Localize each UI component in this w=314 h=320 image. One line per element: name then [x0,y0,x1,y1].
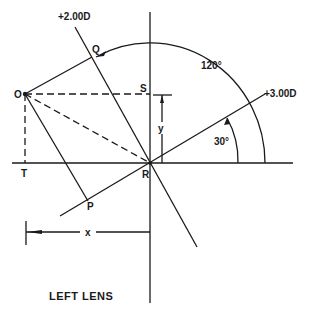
line-op [25,94,88,201]
label-30: 30° [214,136,229,147]
arrowhead-x [27,230,42,234]
label-t: T [21,168,27,179]
label-o: O [14,89,22,100]
label-q: Q [92,44,100,55]
point-r-dot [148,161,152,165]
point-o-dot [23,92,27,96]
label-p: P [87,201,94,212]
diagram-title: LEFT LENS [49,290,113,302]
line-oq [25,57,92,94]
label-2-00d: +2.00D [58,11,91,22]
label-y: y [158,123,164,134]
label-120: 120° [201,60,222,71]
label-r: R [142,169,150,180]
label-s: S [140,83,147,94]
arrowhead-y [160,95,164,103]
meridian-2-00d [75,27,197,247]
label-3-00d: +3.00D [264,88,297,99]
label-x: x [85,227,91,238]
left-lens-diagram: +2.00D +3.00D 120° 30° O Q S R T P y x L… [0,0,314,320]
